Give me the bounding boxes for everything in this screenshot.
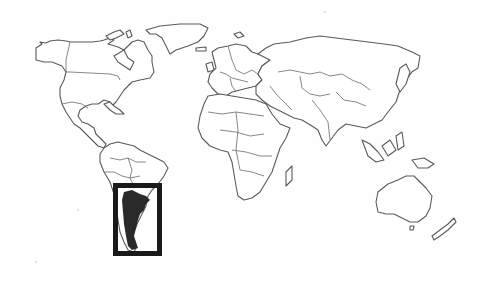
arctic-islands (106, 30, 124, 40)
speck (77, 209, 79, 211)
new-guinea (412, 158, 434, 168)
madagascar (286, 166, 292, 186)
new-zealand (432, 218, 456, 240)
speck (35, 261, 37, 263)
arctic-island-2 (126, 30, 132, 38)
sumatra (362, 140, 384, 162)
north-america (36, 30, 154, 148)
world-map-svg (0, 0, 493, 287)
africa-outline (198, 94, 290, 200)
north-america-outline (36, 38, 154, 148)
southeast-asia (362, 132, 434, 168)
world-map (0, 0, 493, 287)
britain (206, 62, 214, 72)
speck (324, 11, 326, 13)
australia (376, 176, 432, 222)
iceland (196, 47, 206, 51)
svalbard (234, 32, 244, 38)
borneo (382, 140, 396, 156)
tasmania (410, 226, 414, 230)
philippines (396, 132, 404, 150)
